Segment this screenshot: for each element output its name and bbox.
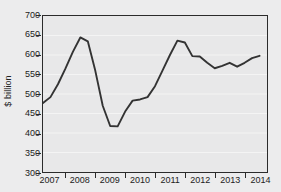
- x-axis-tick-labels: 20072008200920102011201220132014: [0, 0, 281, 192]
- x-tick-label: 2012: [186, 176, 214, 185]
- y-tick-mark: [36, 114, 41, 115]
- y-tick-mark: [36, 74, 41, 75]
- y-tick-mark: [36, 55, 41, 56]
- y-tick-mark: [36, 134, 41, 135]
- line-chart: $ billion 300350400450500550600650700 20…: [0, 0, 281, 192]
- x-tick-label: 2014: [246, 176, 274, 185]
- x-tick-mark: [155, 173, 156, 178]
- x-tick-mark: [245, 173, 246, 178]
- x-tick-mark: [185, 173, 186, 178]
- x-tick-mark: [215, 173, 216, 178]
- x-tick-mark: [65, 173, 66, 178]
- y-tick-mark: [36, 153, 41, 154]
- x-tick-label: 2011: [156, 176, 184, 185]
- y-tick-mark: [36, 94, 41, 95]
- x-tick-label: 2010: [126, 176, 154, 185]
- x-tick-label: 2009: [96, 176, 124, 185]
- x-tick-mark: [95, 173, 96, 178]
- x-tick-label: 2007: [36, 176, 64, 185]
- y-tick-mark: [36, 35, 41, 36]
- x-tick-mark: [125, 173, 126, 178]
- y-tick-mark: [36, 173, 41, 174]
- x-tick-label: 2013: [216, 176, 244, 185]
- x-tick-label: 2008: [66, 176, 94, 185]
- y-tick-mark: [36, 15, 41, 16]
